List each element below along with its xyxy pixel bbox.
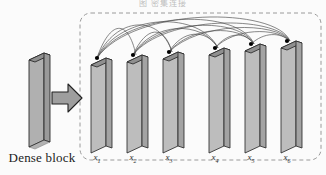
layer-label-x6: x6: [276, 152, 298, 164]
layer-label-x4: x4: [204, 152, 226, 164]
dense-layer-slab: [127, 53, 148, 153]
layer-label-x2: x2: [122, 152, 144, 164]
dense-block-diagram: [0, 0, 326, 175]
layer-label-x1: x1: [86, 152, 108, 164]
layer-label-x3: x3: [158, 152, 180, 164]
dense-layer-slab: [209, 46, 230, 153]
dense-layer-slab: [163, 50, 184, 153]
dense-layer-slab: [91, 56, 112, 153]
flow-arrow: [52, 84, 82, 112]
layer-connection-node: [285, 39, 289, 43]
dense-layer-slab: [281, 39, 302, 153]
dense-layer-slab: [245, 42, 266, 153]
dense-block-input-slab: [29, 53, 50, 149]
layer-label-x5: x5: [240, 152, 262, 164]
layer-connection-node: [131, 53, 135, 57]
layer-connection-node: [167, 50, 171, 54]
figure-canvas: 图 密集连接: [0, 0, 326, 175]
layer-connection-node: [249, 42, 253, 46]
layer-connection-node: [95, 56, 99, 60]
layer-connection-node: [213, 46, 217, 50]
dense-block-label: Dense block: [2, 150, 82, 166]
